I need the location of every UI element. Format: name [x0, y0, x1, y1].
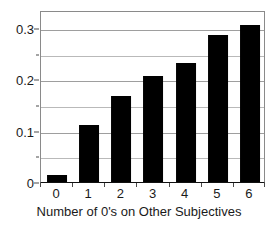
y-axis-tickmark: [34, 183, 39, 184]
y-axis-tickmark: [34, 80, 39, 81]
x-axis-tick-label: 2: [117, 186, 124, 202]
x-axis-tick-label: 5: [213, 186, 220, 202]
y-axis-tickmark-minor: [36, 157, 39, 158]
y-axis-tick-label: 0.2: [0, 74, 34, 87]
y-axis-tick-label: 0: [0, 177, 34, 190]
y-axis-tick-label: 0.3: [0, 22, 34, 35]
bar-chart: 00.10.20.3 0123456 Number of 0's on Othe…: [0, 0, 278, 229]
y-axis-tickmark: [34, 28, 39, 29]
x-axis-tick-label: 6: [245, 186, 252, 202]
x-axis-tick-label: 3: [149, 186, 156, 202]
x-axis-tick-label: 1: [85, 186, 92, 202]
y-axis-tickmark-minor: [36, 105, 39, 106]
x-axis-tick-label: 0: [52, 186, 59, 202]
x-axis-labels: 0123456: [40, 186, 265, 204]
x-axis-tick-label: 4: [181, 186, 188, 202]
y-axis-tickmark-minor: [36, 54, 39, 55]
y-axis-tickmark: [34, 131, 39, 132]
y-axis-tick-label: 0.1: [0, 125, 34, 138]
y-axis-labels: 00.10.20.3: [0, 11, 278, 183]
x-axis-title: Number of 0's on Other Subjectives: [0, 204, 278, 219]
